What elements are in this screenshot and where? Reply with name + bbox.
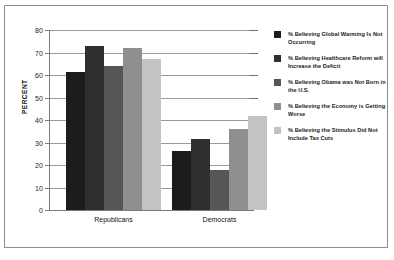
chart-legend: % Believing Global Warming Is Not Occurr… — [274, 30, 386, 150]
bar — [191, 139, 210, 210]
legend-item-label: % Believing Global Warming Is Not Occurr… — [288, 30, 386, 46]
bar — [210, 170, 229, 210]
tick-mark-left — [45, 75, 50, 76]
bar — [85, 46, 104, 210]
bar — [229, 129, 248, 210]
legend-item[interactable]: % Believing the Economy is Getting Worse — [274, 102, 386, 118]
tick-mark-left — [45, 53, 50, 54]
y-tick-label: 50 — [35, 94, 43, 101]
bar — [66, 72, 85, 210]
bar — [104, 66, 123, 210]
legend-item-label: % Believing Healthcare Reform will Incre… — [288, 54, 386, 70]
tick-mark-left — [45, 120, 50, 121]
y-axis-title: PERCENT — [21, 79, 28, 114]
bar — [123, 48, 142, 210]
bar — [142, 59, 161, 210]
bar — [172, 151, 191, 210]
legend-swatch-icon — [274, 103, 281, 110]
legend-item[interactable]: % Believing Obama was Not Born in the U.… — [274, 78, 386, 94]
tick-mark-left — [45, 165, 50, 166]
tick-mark-left — [45, 98, 50, 99]
legend-item-label: % Believing the Economy is Getting Worse — [288, 102, 386, 118]
y-tick-label: 70 — [35, 49, 43, 56]
legend-swatch-icon — [274, 31, 281, 38]
bar — [248, 116, 267, 211]
y-tick-label: 10 — [35, 184, 43, 191]
bar-group — [172, 30, 267, 210]
y-tick-label: 40 — [35, 117, 43, 124]
legend-item[interactable]: % Believing the Stimulus Did Not Include… — [274, 126, 386, 142]
legend-item-label: % Believing the Stimulus Did Not Include… — [288, 126, 386, 142]
y-tick-label: 80 — [35, 27, 43, 34]
legend-swatch-icon — [274, 79, 281, 86]
plot-area: 01020304050607080 Republicans Democrats — [49, 30, 254, 210]
category-label-democrats: Democrats — [160, 216, 280, 223]
legend-item[interactable]: % Believing Healthcare Reform will Incre… — [274, 54, 386, 70]
legend-item[interactable]: % Believing Global Warming Is Not Occurr… — [274, 30, 386, 46]
y-tick-label: 30 — [35, 139, 43, 146]
y-tick-label: 20 — [35, 162, 43, 169]
tick-mark-left — [45, 30, 50, 31]
x-axis-line — [49, 210, 254, 211]
chart-figure: PERCENT 01020304050607080 Republicans De… — [4, 5, 388, 248]
legend-swatch-icon — [274, 55, 281, 62]
legend-swatch-icon — [274, 127, 281, 134]
y-tick-label: 0 — [39, 207, 43, 214]
y-tick-label: 60 — [35, 72, 43, 79]
legend-item-label: % Believing Obama was Not Born in the U.… — [288, 78, 386, 94]
category-label-republicans: Republicans — [54, 216, 174, 223]
tick-mark-left — [45, 188, 50, 189]
tick-mark-left — [45, 210, 50, 211]
bar-group — [66, 30, 161, 210]
tick-mark-left — [45, 143, 50, 144]
